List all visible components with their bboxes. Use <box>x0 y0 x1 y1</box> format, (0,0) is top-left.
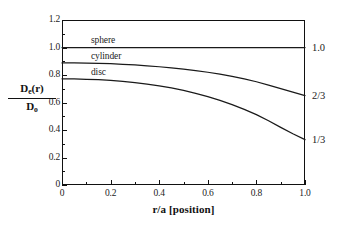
y-tick-mark <box>62 116 65 117</box>
x-tick-mark <box>159 180 160 185</box>
x-tick-mark <box>256 180 257 185</box>
figure-chart-diffusion-coefficient: 00.20.40.60.81.01.2 00.20.40.60.81.0 De(… <box>0 0 338 227</box>
x-tick-label: 0.8 <box>239 188 273 198</box>
curve-label-disc: disc <box>91 67 106 77</box>
curve-label-cylinder: cylinder <box>91 51 121 61</box>
y-tick-label: 0.8 <box>34 70 60 80</box>
y-tick-label: 0.4 <box>34 125 60 135</box>
y-tick-mark <box>62 89 65 90</box>
x-tick-label: 1.0 <box>288 188 322 198</box>
x-tick-label: 0.4 <box>142 188 176 198</box>
y-tick-mark <box>62 48 67 49</box>
y-tick-mark <box>62 34 65 35</box>
x-tick-label: 0.2 <box>94 188 128 198</box>
x-tick-mark <box>208 180 209 185</box>
y-tick-mark <box>62 185 67 186</box>
y-tick-label: 1.2 <box>34 15 60 24</box>
y-tick-mark <box>62 130 67 131</box>
y-axis-title-denominator: Do <box>8 99 56 116</box>
x-axis-tick-labels: 00.20.40.60.81.0 <box>62 188 305 204</box>
x-tick-mark <box>62 180 63 185</box>
y-tick-mark <box>62 158 67 159</box>
x-tick-label: 0.6 <box>191 188 225 198</box>
y-tick-mark <box>62 75 67 76</box>
x-axis-title: r/a [position] <box>62 203 305 215</box>
right-axis-annotation: 1.0 <box>312 42 325 53</box>
x-tick-mark <box>281 182 282 185</box>
y-tick-mark <box>62 61 65 62</box>
y-tick-mark <box>62 103 67 104</box>
x-tick-mark <box>184 182 185 185</box>
curve-label-sphere: sphere <box>91 35 115 45</box>
x-tick-mark <box>305 180 306 185</box>
x-tick-label: 0 <box>45 188 79 198</box>
curve-disc <box>62 79 305 140</box>
y-tick-label: 1.0 <box>34 43 60 53</box>
x-tick-mark <box>232 182 233 185</box>
y-axis-title-numerator: De(r) <box>8 82 56 99</box>
y-tick-mark <box>62 20 67 21</box>
x-tick-mark <box>111 180 112 185</box>
right-axis-annotation: 1/3 <box>312 134 325 145</box>
x-tick-mark <box>135 182 136 185</box>
y-tick-mark <box>62 171 65 172</box>
y-axis-title: De(r) Do <box>8 82 56 115</box>
x-tick-mark <box>86 182 87 185</box>
y-tick-mark <box>62 144 65 145</box>
right-axis-annotation: 2/3 <box>312 90 325 101</box>
y-tick-label: 0.2 <box>34 153 60 163</box>
